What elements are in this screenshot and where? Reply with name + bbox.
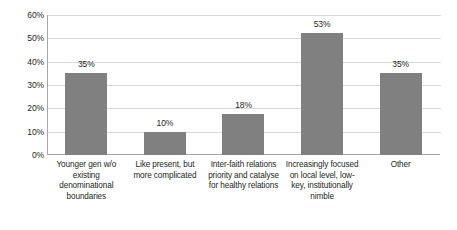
bar-slot: 10% bbox=[126, 15, 205, 155]
bar-slot: 18% bbox=[204, 15, 283, 155]
bar-slot: 53% bbox=[283, 15, 362, 155]
bar-chart: 60% 50% 40% 30% 20% 10% 0% 35% 10% 18% bbox=[0, 0, 457, 230]
bar[interactable]: 35% bbox=[65, 73, 107, 155]
bar[interactable]: 18% bbox=[222, 114, 264, 155]
bar-value-label: 53% bbox=[314, 20, 331, 29]
bar[interactable]: 10% bbox=[144, 132, 186, 155]
y-axis-tick-label: 50% bbox=[4, 34, 44, 43]
y-axis-tick-label: 30% bbox=[4, 81, 44, 90]
bar-value-label: 35% bbox=[78, 60, 95, 69]
x-axis-categories: Younger gen w/o existing denominational … bbox=[47, 160, 440, 202]
y-axis-tick-label: 10% bbox=[4, 128, 44, 137]
bar-value-label: 35% bbox=[392, 60, 409, 69]
bar-slot: 35% bbox=[47, 15, 126, 155]
x-axis-category-label: Other bbox=[361, 160, 440, 171]
y-axis-tick-label: 20% bbox=[4, 104, 44, 113]
x-axis-category-label: Increasingly focused on local level, low… bbox=[283, 160, 362, 202]
bar-value-label: 18% bbox=[235, 101, 252, 110]
y-axis-tick-label: 0% bbox=[4, 151, 44, 160]
bar-slot: 35% bbox=[361, 15, 440, 155]
bar[interactable]: 53% bbox=[301, 33, 343, 156]
bar-value-label: 10% bbox=[157, 119, 174, 128]
y-axis-tick-label: 40% bbox=[4, 58, 44, 67]
y-axis-tick-label: 60% bbox=[4, 11, 44, 20]
bar-series: 35% 10% 18% 53% 35% bbox=[47, 15, 440, 155]
x-axis-category-label: Inter-faith relations priority and catal… bbox=[204, 160, 283, 192]
x-axis-category-label: Younger gen w/o existing denominational … bbox=[47, 160, 126, 202]
bar[interactable]: 35% bbox=[380, 73, 422, 155]
x-axis-category-label: Like present, but more complicated bbox=[126, 160, 205, 181]
